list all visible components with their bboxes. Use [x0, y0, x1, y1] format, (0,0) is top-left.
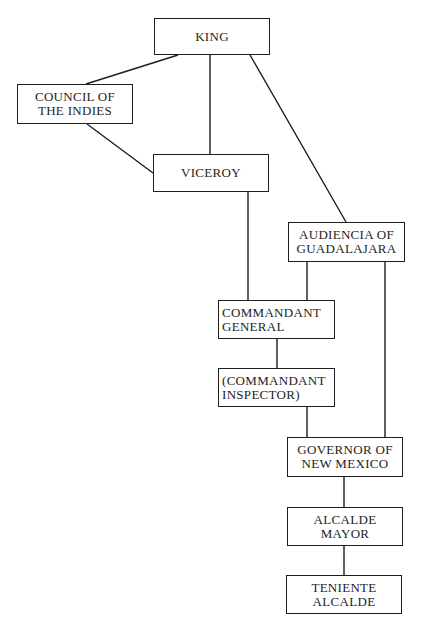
node-label: GOVERNOR OF NEW MEXICO	[297, 443, 392, 471]
node-label: KING	[195, 30, 229, 44]
node-label: COMMANDANT GENERAL	[222, 306, 321, 334]
org-chart: KING COUNCIL OF THE INDIES VICEROY AUDIE…	[0, 0, 421, 628]
edge-king-audiencia	[250, 55, 346, 222]
node-audiencia-of-guadalajara: AUDIENCIA OF GUADALAJARA	[288, 222, 405, 262]
node-king: KING	[154, 18, 270, 55]
node-teniente-alcalde: TENIENTE ALCALDE	[286, 575, 402, 614]
node-commandant-inspector: (COMMANDANT INSPECTOR)	[218, 368, 335, 407]
node-label: AUDIENCIA OF GUADALAJARA	[296, 228, 396, 256]
node-label: ALCALDE MAYOR	[314, 513, 377, 541]
edge-council-viceroy	[87, 124, 153, 173]
node-alcalde-mayor: ALCALDE MAYOR	[287, 507, 403, 546]
node-label: VICEROY	[181, 166, 241, 180]
node-council-of-the-indies: COUNCIL OF THE INDIES	[17, 84, 133, 124]
node-label: (COMMANDANT INSPECTOR)	[222, 374, 326, 402]
edge-king-council	[86, 55, 178, 84]
node-label: COUNCIL OF THE INDIES	[35, 90, 115, 118]
node-governor-of-new-mexico: GOVERNOR OF NEW MEXICO	[287, 437, 403, 477]
node-viceroy: VICEROY	[153, 154, 269, 192]
node-commandant-general: COMMANDANT GENERAL	[218, 300, 335, 339]
node-label: TENIENTE ALCALDE	[311, 581, 376, 609]
